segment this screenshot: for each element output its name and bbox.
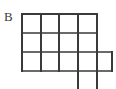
gridline-vertical-extension-right xyxy=(111,51,113,72)
gridline-vertical-col2 xyxy=(58,13,60,72)
grid-diagram-figure: B xyxy=(0,0,116,89)
gridline-vertical-col4 xyxy=(96,13,98,89)
gridline-vertical-col3 xyxy=(77,13,79,89)
figure-label-b: B xyxy=(4,10,13,23)
gridline-vertical-col1 xyxy=(40,13,42,72)
gridline-vertical-col0 xyxy=(21,13,23,72)
